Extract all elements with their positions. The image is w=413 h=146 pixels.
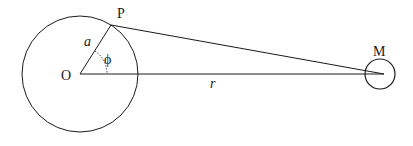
label-phi: ϕ xyxy=(104,52,111,67)
label-m: M xyxy=(373,44,386,59)
label-p: P xyxy=(117,6,125,21)
label-a: a xyxy=(84,34,91,49)
diagram-canvas: P O a ϕ r M xyxy=(0,0,413,146)
label-r: r xyxy=(210,76,216,91)
line-p-to-m xyxy=(111,25,384,74)
label-o: O xyxy=(61,68,71,83)
